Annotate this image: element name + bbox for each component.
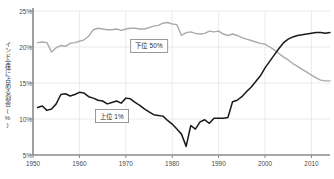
plot-area xyxy=(0,0,334,179)
series-label-1: 下位 50% xyxy=(130,39,168,53)
series-label-2: 上位 1% xyxy=(95,109,129,123)
chart-root: インド全体に占める割合(%) 5%10%15%20%25% 1950196019… xyxy=(0,0,334,179)
series-line-2 xyxy=(38,33,330,147)
series-line-1 xyxy=(38,23,330,81)
